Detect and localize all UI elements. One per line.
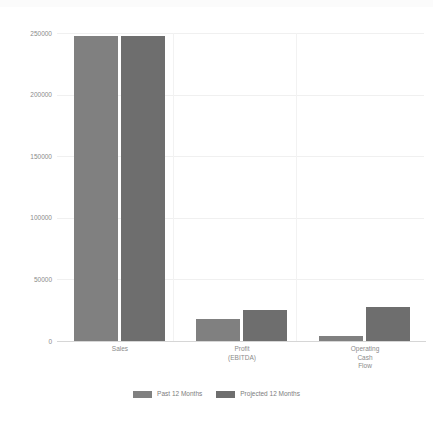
y-tick-label: 150000 [0, 153, 52, 160]
legend-swatch-icon [216, 391, 235, 398]
bar-profit-projected[interactable] [243, 310, 287, 341]
y-tick-label: 250000 [0, 30, 52, 37]
legend-item-past[interactable]: Past 12 Months [133, 390, 202, 398]
y-tick-label: 200000 [0, 91, 52, 98]
plot-area [57, 33, 424, 341]
legend-item-projected[interactable]: Projected 12 Months [216, 390, 300, 398]
x-axis: Sales Profit (EBITDA) Operating Cash Flo… [57, 345, 424, 385]
legend-label: Past 12 Months [157, 390, 202, 398]
y-tick-label: 100000 [0, 214, 52, 221]
x-tick-label-ocf: Operating Cash Flow [315, 345, 415, 371]
top-edge-band [0, 0, 433, 7]
bar-chart: 250000 200000 150000 100000 50000 0 Sale… [0, 0, 433, 422]
x-axis-line [57, 341, 426, 342]
bar-sales-projected[interactable] [121, 36, 165, 341]
legend: Past 12 Months Projected 12 Months [0, 390, 433, 398]
category-separator [173, 33, 174, 341]
x-tick-label-sales: Sales [70, 345, 170, 354]
gridline [57, 33, 424, 34]
bar-sales-past[interactable] [74, 36, 118, 341]
x-tick-label-profit: Profit (EBITDA) [192, 345, 292, 362]
y-tick-label: 0 [0, 338, 52, 345]
y-tick-label: 50000 [0, 276, 52, 283]
legend-swatch-icon [133, 391, 152, 398]
bar-ocf-projected[interactable] [366, 307, 410, 341]
legend-label: Projected 12 Months [240, 390, 300, 398]
bar-profit-past[interactable] [196, 319, 240, 341]
category-separator [296, 33, 297, 341]
